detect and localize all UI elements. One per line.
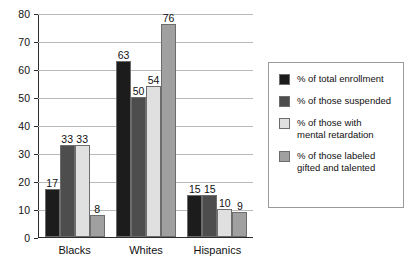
bar-value-label: 15 — [189, 184, 201, 195]
bar-value-label: 33 — [76, 134, 88, 145]
legend-swatch-icon — [279, 118, 290, 129]
legend-label: % of total enrollment — [297, 73, 384, 85]
bar-value-label: 63 — [118, 50, 130, 61]
bar[interactable]: 54 — [146, 86, 161, 237]
bar-value-label: 50 — [133, 86, 145, 97]
legend-label: % of those withmental retardation — [297, 117, 374, 140]
bar-slot: 10 — [217, 14, 232, 237]
y-axis-tick-label: 80 — [0, 9, 30, 19]
chart-screenshot: 80706050403020100 1733338635054761515109… — [0, 0, 413, 276]
y-axis-tick — [34, 126, 38, 127]
bar-slot: 8 — [90, 14, 105, 237]
bar[interactable]: 8 — [90, 215, 105, 237]
y-axis-tick-label: 40 — [0, 121, 30, 131]
bar[interactable]: 17 — [45, 189, 60, 237]
bar-slot: 33 — [75, 14, 90, 237]
bar[interactable]: 15 — [202, 195, 217, 237]
x-axis-category-label: Blacks — [39, 244, 110, 256]
bar-value-label: 8 — [94, 204, 100, 215]
bar-slot: 17 — [45, 14, 60, 237]
bar[interactable]: 10 — [217, 209, 232, 237]
y-axis-tick — [34, 42, 38, 43]
y-axis-tick-label: 50 — [0, 93, 30, 103]
bar-value-label: 10 — [219, 198, 231, 209]
y-axis-tick — [34, 210, 38, 211]
bar-slot: 50 — [131, 14, 146, 237]
bar-groups: 1733338635054761515109 — [39, 14, 253, 237]
y-axis-tick — [34, 14, 38, 15]
legend-item[interactable]: % of total enrollment — [279, 73, 395, 85]
bar-chart: 80706050403020100 1733338635054761515109… — [0, 0, 262, 276]
bar[interactable]: 9 — [232, 212, 247, 237]
bar-value-label: 17 — [46, 178, 58, 189]
bar[interactable]: 63 — [116, 61, 131, 237]
y-axis-tick-label: 0 — [0, 233, 30, 243]
y-axis-tick-labels: 80706050403020100 — [0, 14, 30, 238]
chart-legend: % of total enrollment% of those suspende… — [268, 62, 404, 208]
bar-slot: 76 — [161, 14, 176, 237]
y-axis-tick-label: 30 — [0, 149, 30, 159]
x-axis-category-label: Hispanics — [182, 244, 253, 256]
x-axis-category-labels: BlacksWhitesHispanics — [39, 244, 253, 256]
bar-slot: 15 — [202, 14, 217, 237]
bar[interactable]: 15 — [187, 195, 202, 237]
bar-group-hispanics: 1515109 — [187, 14, 247, 237]
legend-item[interactable]: % of those labeledgifted and talented — [279, 150, 395, 173]
y-axis-tick-label: 70 — [0, 37, 30, 47]
bar-value-label: 76 — [163, 13, 175, 24]
bar-value-label: 54 — [148, 75, 160, 86]
y-axis-tick — [34, 238, 38, 239]
legend-swatch-icon — [279, 96, 290, 107]
bar-slot: 15 — [187, 14, 202, 237]
bar-slot: 54 — [146, 14, 161, 237]
legend-label: % of those suspended — [297, 95, 391, 107]
bar-slot: 33 — [60, 14, 75, 237]
y-axis-tick — [34, 98, 38, 99]
x-axis-category-label: Whites — [110, 244, 181, 256]
bar[interactable]: 33 — [75, 145, 90, 237]
bar-value-label: 15 — [204, 184, 216, 195]
y-axis-tick-label: 20 — [0, 177, 30, 187]
legend-item[interactable]: % of those withmental retardation — [279, 117, 395, 140]
plot-area: 1733338635054761515109 — [38, 14, 253, 238]
legend-item[interactable]: % of those suspended — [279, 95, 395, 107]
bar[interactable]: 33 — [60, 145, 75, 237]
bar-value-label: 33 — [61, 134, 73, 145]
bar-group-whites: 63505476 — [116, 14, 176, 237]
y-axis-tick — [34, 154, 38, 155]
bar-slot: 63 — [116, 14, 131, 237]
legend-label: % of those labeledgifted and talented — [297, 150, 375, 173]
bar-value-label: 9 — [237, 201, 243, 212]
y-axis-tick — [34, 70, 38, 71]
y-axis-tick-label: 10 — [0, 205, 30, 215]
bar-slot: 9 — [232, 14, 247, 237]
y-axis-tick — [34, 182, 38, 183]
legend-swatch-icon — [279, 74, 290, 85]
bar[interactable]: 50 — [131, 97, 146, 237]
bar-group-blacks: 1733338 — [45, 14, 105, 237]
legend-swatch-icon — [279, 151, 290, 162]
y-axis-tick-label: 60 — [0, 65, 30, 75]
bar[interactable]: 76 — [161, 24, 176, 237]
